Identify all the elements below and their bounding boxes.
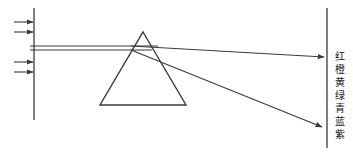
spectrum-label-red: 红 bbox=[335, 50, 345, 63]
incoming-light-arrows bbox=[14, 22, 33, 72]
spectrum-label-cyan: 青 bbox=[335, 102, 345, 115]
spectrum-label-orange: 橙 bbox=[335, 63, 345, 76]
spectrum-label-violet: 紫 bbox=[335, 128, 345, 141]
red-ray bbox=[131, 46, 324, 57]
prism-triangle bbox=[100, 32, 186, 105]
violet-ray bbox=[131, 50, 322, 127]
spectrum-color-labels: 红 橙 黄 绿 青 蓝 紫 bbox=[331, 50, 349, 141]
optics-diagram-canvas bbox=[0, 0, 353, 162]
prism-dispersion-figure: 红 橙 黄 绿 青 蓝 紫 bbox=[0, 0, 353, 162]
spectrum-label-green: 绿 bbox=[335, 89, 345, 102]
spectrum-label-yellow: 黄 bbox=[335, 76, 345, 89]
spectrum-label-blue: 蓝 bbox=[335, 115, 345, 128]
